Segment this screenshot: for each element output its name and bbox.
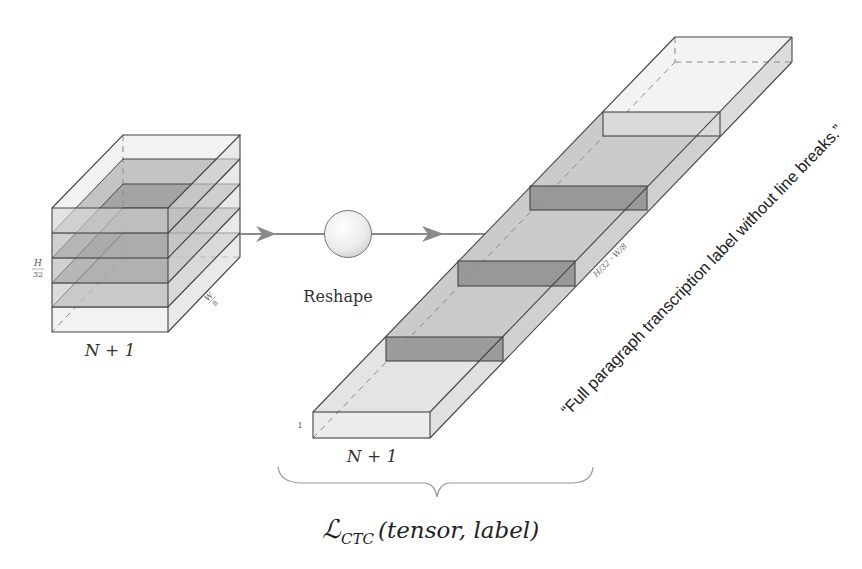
input-depth-label: W 8 [202, 290, 222, 310]
reshape-label: Reshape [303, 287, 372, 306]
reshape-node [325, 211, 372, 258]
svg-text:32: 32 [33, 270, 43, 279]
loss-subscript: CTC [341, 530, 374, 548]
input-width-label: N + 1 [84, 340, 136, 360]
loss-formula: ℒ CTC (tensor, label) [322, 514, 539, 548]
feature-band-3 [530, 186, 647, 210]
output-width-label: N + 1 [346, 446, 398, 466]
loss-symbol: ℒ [322, 514, 342, 544]
loss-args: (tensor, label) [378, 517, 539, 543]
output-height-label: 1 [297, 421, 302, 430]
brace [278, 467, 593, 497]
svg-text:8: 8 [211, 299, 220, 308]
svg-text:H: H [33, 258, 42, 268]
feature-band-2 [458, 261, 575, 286]
input-height-label: H 32 [32, 258, 44, 279]
feature-band-1 [386, 337, 503, 361]
feature-band-4 [603, 112, 720, 136]
reshape-diagram: N + 1 H 32 W 8 Reshape [0, 0, 862, 569]
